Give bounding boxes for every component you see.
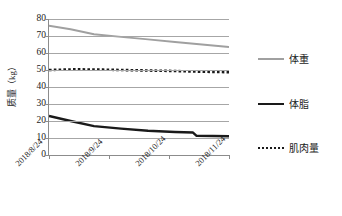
legend-label-weight: 体重	[289, 51, 309, 66]
y-tick-mark	[45, 70, 49, 71]
x-tick-mark	[229, 155, 230, 159]
legend-swatch-body-fat-icon	[258, 103, 284, 105]
gridline	[49, 53, 229, 54]
gridline	[49, 36, 229, 37]
y-axis-title: 质量（kg）	[5, 53, 18, 117]
legend-label-body-fat: 体脂	[289, 96, 309, 111]
y-tick-label: 60	[22, 48, 46, 58]
chart-legend: 体重 体脂 肌肉量	[258, 0, 342, 216]
plot-area	[49, 19, 229, 155]
y-tick-mark	[45, 87, 49, 88]
gridline	[49, 104, 229, 105]
y-tick-mark	[45, 104, 49, 105]
y-tick-mark	[45, 138, 49, 139]
y-tick-label: 70	[22, 31, 46, 41]
series-line-体脂	[49, 116, 229, 136]
y-tick-label: 50	[22, 65, 46, 75]
y-tick-label: 40	[22, 82, 46, 92]
x-tick-mark	[109, 155, 110, 159]
y-tick-mark	[45, 53, 49, 54]
x-tick-mark	[169, 155, 170, 159]
legend-item-muscle-mass[interactable]: 肌肉量	[258, 140, 319, 155]
gridline	[49, 19, 229, 20]
y-tick-mark	[45, 36, 49, 37]
legend-swatch-weight-icon	[258, 58, 284, 60]
legend-item-weight[interactable]: 体重	[258, 51, 309, 66]
gridline	[49, 87, 229, 88]
gridline	[49, 138, 229, 139]
y-tick-label: 80	[22, 14, 46, 24]
gridline	[49, 121, 229, 122]
y-tick-label: 20	[22, 116, 46, 126]
legend-swatch-muscle-mass-icon	[258, 147, 284, 149]
legend-item-body-fat[interactable]: 体脂	[258, 96, 309, 111]
line-chart: 质量（kg） 80706050403020100 2018/8/242018/9…	[0, 0, 342, 216]
gridline	[49, 70, 229, 71]
y-tick-mark	[45, 121, 49, 122]
y-tick-mark	[45, 19, 49, 20]
x-tick-mark	[49, 155, 50, 159]
legend-label-muscle-mass: 肌肉量	[289, 140, 319, 155]
y-tick-label: 30	[22, 99, 46, 109]
y-axis-tick-labels: 80706050403020100	[22, 0, 46, 216]
